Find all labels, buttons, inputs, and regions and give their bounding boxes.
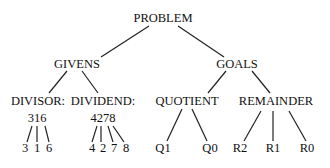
edge-dividend_v-n7 xyxy=(108,126,113,142)
node-d3: 3 xyxy=(22,141,28,155)
edge-remainder-r2 xyxy=(244,111,261,141)
node-d6: 6 xyxy=(46,141,52,155)
edge-quotient-q1 xyxy=(167,109,182,141)
edge-problem-goals xyxy=(178,26,224,57)
node-problem: PROBLEM xyxy=(133,11,192,25)
node-d1: 1 xyxy=(34,141,40,155)
edge-dividend_v-n4 xyxy=(92,126,97,142)
node-q1: Q1 xyxy=(155,141,170,155)
edge-divisor_v-d6 xyxy=(45,126,49,142)
node-n8: 8 xyxy=(123,141,129,155)
node-dividend: DIVIDEND: xyxy=(71,94,136,108)
node-r2: R2 xyxy=(233,141,248,155)
edge-divisor_v-d3 xyxy=(27,126,32,142)
node-remainder: REMAINDER xyxy=(239,94,314,108)
edge-quotient-q0 xyxy=(192,109,207,141)
edge-givens-dividend xyxy=(82,71,98,93)
edge-goals-remainder xyxy=(252,71,270,93)
node-r1: R1 xyxy=(266,141,281,155)
problem-tree-diagram: PROBLEMGIVENSGOALSDIVISOR:316DIVIDEND:42… xyxy=(0,0,330,168)
edge-givens-divisor xyxy=(49,71,67,93)
node-quotient: QUOTIENT xyxy=(155,94,219,108)
node-n7: 7 xyxy=(111,141,117,155)
node-n2: 2 xyxy=(100,141,106,155)
node-r0: R0 xyxy=(300,141,315,155)
node-goals: GOALS xyxy=(216,57,258,71)
node-q0: Q0 xyxy=(202,141,217,155)
edge-remainder-r0 xyxy=(289,111,306,141)
tree-edges xyxy=(27,26,306,142)
node-n4: 4 xyxy=(89,141,96,155)
node-givens: GIVENS xyxy=(54,57,100,71)
edge-dividend_v-n8 xyxy=(113,126,124,142)
node-divisor_v: 316 xyxy=(28,111,47,125)
edge-problem-givens xyxy=(101,26,149,57)
node-divisor: DIVISOR: xyxy=(11,94,65,108)
edge-goals-quotient xyxy=(208,71,226,93)
node-dividend_v: 4278 xyxy=(91,111,116,125)
